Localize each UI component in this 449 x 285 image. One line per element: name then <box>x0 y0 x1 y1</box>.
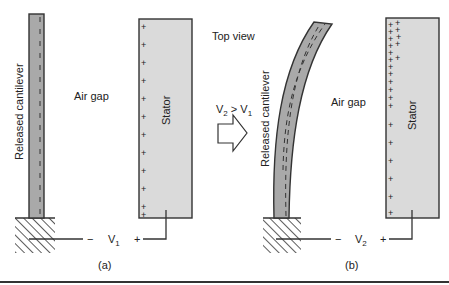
panel-b: Released cantilever Air gap ++ ++ ++ ++ … <box>259 18 439 271</box>
air-gap-label: Air gap <box>74 90 109 102</box>
stator-label: Stator <box>160 95 172 125</box>
caption-b: (b) <box>345 259 358 271</box>
svg-text:+: + <box>141 210 146 220</box>
cantilever-label: Released cantilever <box>13 63 25 160</box>
svg-text:+: + <box>141 166 146 176</box>
voltage-label: V1 <box>108 233 120 248</box>
svg-text:+: + <box>141 22 146 32</box>
svg-text:+: + <box>388 192 393 202</box>
panel-a: Released cantilever Air gap +++ +++ +++ … <box>13 14 192 271</box>
svg-text:+: + <box>141 130 146 140</box>
svg-text:+: + <box>388 174 393 184</box>
svg-text:+: + <box>141 58 146 68</box>
voltage-negative-sign: − <box>335 233 341 245</box>
svg-text:+: + <box>141 76 146 86</box>
voltage-negative-sign: − <box>87 233 93 245</box>
right-arrow-icon <box>218 115 247 151</box>
electrostatic-actuation-diagram: Released cantilever Air gap +++ +++ +++ … <box>0 0 449 285</box>
transition: Top view V2 > V1 <box>212 30 255 151</box>
released-cantilever <box>29 14 44 218</box>
svg-text:+: + <box>141 148 146 158</box>
voltage-label: V2 <box>355 233 367 248</box>
svg-text:+: + <box>395 39 400 49</box>
voltage-positive-sign: + <box>134 233 140 245</box>
voltage-positive-sign: + <box>380 233 386 245</box>
svg-text:+: + <box>141 40 146 50</box>
svg-text:+: + <box>388 208 393 218</box>
svg-text:+: + <box>141 112 146 122</box>
top-view-label: Top view <box>212 30 255 42</box>
stator-label: Stator <box>406 100 418 130</box>
air-gap-label: Air gap <box>331 96 366 108</box>
svg-text:+: + <box>388 138 393 148</box>
svg-text:+: + <box>388 120 393 130</box>
svg-text:+: + <box>388 101 393 111</box>
svg-text:+: + <box>141 184 146 194</box>
svg-text:+: + <box>395 53 400 63</box>
voltage-relation-label: V2 > V1 <box>216 103 253 118</box>
anchor-hatch <box>263 218 301 253</box>
anchor-hatch <box>15 218 55 253</box>
released-cantilever-deflected <box>274 22 332 218</box>
svg-text:+: + <box>388 156 393 166</box>
svg-text:+: + <box>141 94 146 104</box>
caption-a: (a) <box>98 259 111 271</box>
cantilever-label: Released cantilever <box>259 70 271 167</box>
